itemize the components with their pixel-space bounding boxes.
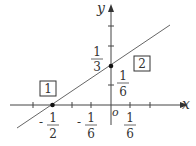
svg-text:1: 1	[87, 111, 95, 125]
svg-text:6: 6	[119, 85, 127, 99]
svg-text:1: 1	[49, 111, 57, 125]
box-label-2: 2	[134, 56, 150, 71]
svg-text:-: -	[39, 115, 43, 129]
svg-text:2: 2	[138, 57, 146, 71]
svg-text:2: 2	[49, 127, 57, 141]
svg-text:1: 1	[44, 82, 52, 96]
svg-text:6: 6	[126, 127, 134, 141]
svg-text:1: 1	[119, 69, 127, 83]
svg-text:1: 1	[126, 111, 134, 125]
point-y-intercept	[109, 64, 114, 69]
coordinate-plane: y x o 1 3 1 6 - 1 2 - 1 6 1 6 1 2	[0, 0, 196, 146]
origin-label: o	[112, 106, 119, 119]
y-tick-label-1-6: 1 6	[117, 69, 129, 99]
y-tick-label-1-3: 1 3	[91, 45, 103, 74]
y-axis-label: y	[96, 0, 106, 16]
x-tick-label-1-6: 1 6	[124, 111, 136, 141]
svg-text:1: 1	[93, 45, 101, 59]
svg-text:6: 6	[87, 127, 95, 141]
svg-text:3: 3	[93, 60, 101, 74]
svg-text:-: -	[77, 115, 81, 129]
x-tick-label-neg-1-2: - 1 2	[39, 111, 59, 141]
y-axis-arrow-icon	[108, 4, 114, 12]
box-label-1: 1	[40, 81, 56, 96]
x-axis-label: x	[182, 96, 190, 112]
x-tick-label-neg-1-6: - 1 6	[77, 111, 97, 141]
point-x-intercept	[50, 103, 55, 108]
